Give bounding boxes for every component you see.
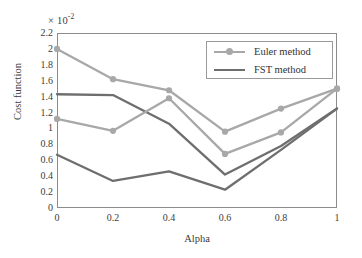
data-point-marker <box>166 95 172 101</box>
x-axis-tick-label: 1 <box>317 212 357 223</box>
y-axis-tick-label: 1.6 <box>7 76 53 86</box>
data-point-marker <box>54 46 60 52</box>
x-axis-tick-label: 0.2 <box>93 212 133 223</box>
x-axis-tick-label: 0 <box>37 212 77 223</box>
legend-swatch-euler-method <box>214 45 245 59</box>
data-point-marker <box>110 76 116 82</box>
data-point-marker <box>222 129 228 135</box>
series-line <box>57 89 337 154</box>
y-axis-multiplier-exponent: -2 <box>68 12 75 21</box>
series-fst-method-1 <box>57 94 337 174</box>
x-axis-tick-label: 0.8 <box>261 212 301 223</box>
x-axis-title: Alpha <box>57 233 337 244</box>
data-point-marker <box>278 105 284 111</box>
legend: Euler method FST method <box>206 41 333 79</box>
y-axis-tick-label: 1 <box>7 123 53 133</box>
y-axis-tick-label: 0.2 <box>7 187 53 197</box>
data-point-marker <box>334 86 340 92</box>
y-axis-tick-label: 0.4 <box>7 171 53 181</box>
data-point-marker <box>278 129 284 135</box>
legend-label-fst-method: FST method <box>254 64 306 75</box>
y-axis-tick-label: 1.8 <box>7 60 53 70</box>
legend-swatch-fst-method <box>214 63 245 77</box>
y-axis-tick-label: 1.2 <box>7 108 53 118</box>
y-axis-tick-label: 0.8 <box>7 139 53 149</box>
series-line <box>57 94 337 174</box>
data-point-marker <box>54 116 60 122</box>
data-point-marker <box>166 87 172 93</box>
y-axis-tick-label: 1.4 <box>7 92 53 102</box>
legend-item-fst-method: FST method <box>207 60 332 79</box>
y-axis-tick-label: 2.2 <box>7 28 53 38</box>
data-point-marker <box>222 151 228 157</box>
y-axis-tick-label: 2 <box>7 44 53 54</box>
y-axis-tick-label: 0.6 <box>7 155 53 165</box>
series-euler-method-2 <box>54 86 340 157</box>
data-point-marker <box>110 128 116 134</box>
figure: × 10-2 Cost function Alpha 2.221.81.61.4… <box>0 0 362 258</box>
x-axis-tick-label: 0.4 <box>149 212 189 223</box>
legend-item-euler-method: Euler method <box>207 42 332 61</box>
x-axis-tick-label: 0.6 <box>205 212 245 223</box>
legend-label-euler-method: Euler method <box>254 46 311 57</box>
